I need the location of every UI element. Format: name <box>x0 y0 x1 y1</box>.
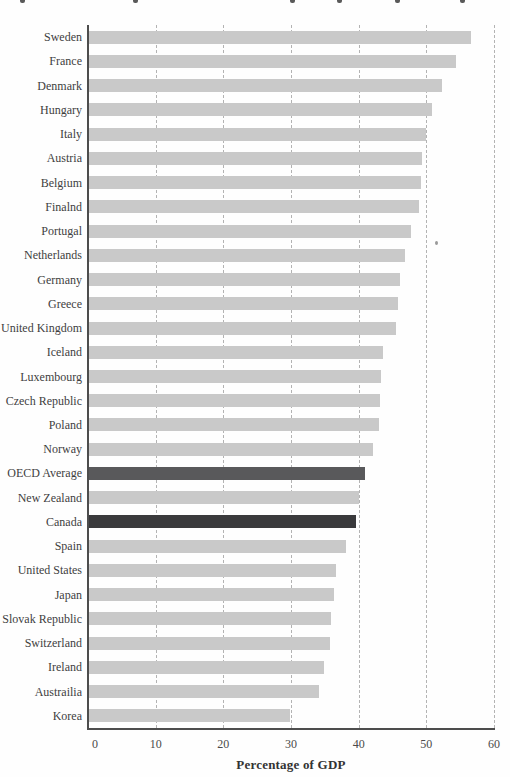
bar-luxembourg <box>89 370 381 383</box>
bar-portugal <box>89 225 411 238</box>
cropped-title-fragment <box>395 0 400 3</box>
chart-page: SwedenFranceDenmarkHungaryItalyAustriaBe… <box>0 0 510 777</box>
x-tick-40: 40 <box>339 737 379 752</box>
category-label-czech-republic: Czech Republic <box>0 393 82 409</box>
category-label-sweden: Sweden <box>0 29 82 45</box>
bar-united-kingdom <box>89 322 396 335</box>
bar-iceland <box>89 346 383 359</box>
bar-switzerland <box>89 637 330 650</box>
category-label-new-zealand: New Zealand <box>0 490 82 506</box>
category-label-poland: Poland <box>0 417 82 433</box>
bar-finalnd <box>89 200 419 213</box>
bar-austria <box>89 152 422 165</box>
cropped-title-fragment <box>460 0 465 3</box>
bar-sweden <box>89 31 471 44</box>
category-label-slovak-republic: Slovak Republic <box>0 611 82 627</box>
category-label-denmark: Denmark <box>0 78 82 94</box>
category-label-switzerland: Switzerland <box>0 635 82 651</box>
category-label-ireland: Ireland <box>0 659 82 675</box>
category-label-greece: Greece <box>0 296 82 312</box>
bar-netherlands <box>89 249 405 262</box>
x-tick-20: 20 <box>203 737 243 752</box>
bar-austrailia <box>89 685 319 698</box>
bar-japan <box>89 588 334 601</box>
category-label-oecd-average: OECD Average <box>0 465 82 481</box>
category-label-canada: Canada <box>0 514 82 530</box>
bar-hungary <box>89 103 432 116</box>
category-label-belgium: Belgium <box>0 175 82 191</box>
category-label-netherlands: Netherlands <box>0 247 82 263</box>
bar-slovak-republic <box>89 612 331 625</box>
bar-united-states <box>89 564 336 577</box>
bar-norway <box>89 443 373 456</box>
bar-belgium <box>89 176 421 189</box>
bar-canada <box>89 515 356 528</box>
x-axis-line <box>87 728 495 730</box>
bar-denmark <box>89 79 442 92</box>
cropped-title-fragment <box>337 0 342 3</box>
gridline-50 <box>426 25 427 728</box>
category-label-united-states: United States <box>0 562 82 578</box>
category-label-finalnd: Finalnd <box>0 199 82 215</box>
category-label-germany: Germany <box>0 272 82 288</box>
bar-poland <box>89 418 379 431</box>
category-label-norway: Norway <box>0 441 82 457</box>
gridline-60 <box>494 25 495 728</box>
category-label-united-kingdom: United Kingdom <box>0 320 82 336</box>
category-label-spain: Spain <box>0 538 82 554</box>
bar-czech-republic <box>89 394 380 407</box>
cropped-title-fragment <box>20 0 25 3</box>
x-tick-10: 10 <box>136 737 176 752</box>
category-label-luxembourg: Luxembourg <box>0 369 82 385</box>
category-label-korea: Korea <box>0 708 82 724</box>
scan-speck <box>435 241 438 245</box>
category-label-austria: Austria <box>0 150 82 166</box>
category-label-austrailia: Austrailia <box>0 684 82 700</box>
bar-italy <box>89 128 426 141</box>
category-label-france: France <box>0 53 82 69</box>
category-label-japan: Japan <box>0 587 82 603</box>
category-label-italy: Italy <box>0 126 82 142</box>
x-tick-0: 0 <box>75 737 115 752</box>
bar-oecd-average <box>89 467 365 480</box>
bar-germany <box>89 273 400 286</box>
cropped-title-fragment <box>133 0 138 3</box>
bar-ireland <box>89 661 324 674</box>
x-tick-30: 30 <box>271 737 311 752</box>
bar-new-zealand <box>89 491 359 504</box>
x-tick-60: 60 <box>474 737 510 752</box>
category-label-portugal: Portugal <box>0 223 82 239</box>
bar-france <box>89 55 456 68</box>
category-label-iceland: Iceland <box>0 344 82 360</box>
bar-korea <box>89 709 290 722</box>
x-axis-title: Percentage of GDP <box>88 757 494 773</box>
bar-spain <box>89 540 346 553</box>
bar-greece <box>89 297 398 310</box>
x-tick-50: 50 <box>406 737 446 752</box>
category-label-hungary: Hungary <box>0 102 82 118</box>
cropped-title-fragment <box>290 0 295 3</box>
